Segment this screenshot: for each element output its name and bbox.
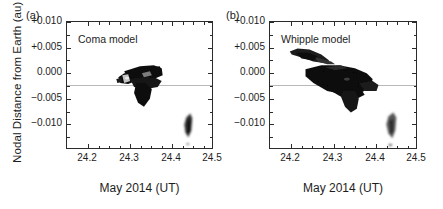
y-tick-major: [67, 73, 71, 74]
x-tick-minor: [193, 146, 194, 149]
y-axis-title: Nodal Distance from Earth (au): [11, 3, 23, 163]
x-axis-title-b: May 2014 (UT): [269, 181, 417, 195]
x-tick-label: 24.4: [365, 153, 384, 163]
x-tick-major-top: [88, 22, 89, 26]
y-tick-minor: [270, 86, 273, 87]
x-tick-major-top: [172, 22, 173, 26]
x-tick-minor-top: [387, 22, 388, 25]
x-tick-minor-top: [397, 22, 398, 25]
x-tick-minor: [162, 146, 163, 149]
x-tick-label: 24.5: [202, 153, 221, 163]
y-tick-major-right: [412, 73, 416, 74]
dust-cloud-main-b: [306, 65, 379, 112]
x-tick-major: [291, 144, 292, 148]
dust-cloud-upper-b: [290, 49, 335, 65]
x-tick-label: 24.3: [323, 153, 342, 163]
x-tick-minor-top: [312, 22, 313, 25]
plot-frame-a: Coma model: [66, 21, 213, 149]
x-tick-minor: [302, 146, 303, 149]
y-tick-minor: [270, 137, 273, 138]
x-tick-minor: [387, 146, 388, 149]
x-tick-minor-top: [141, 22, 142, 25]
x-tick-label: 24.4: [161, 153, 180, 163]
x-tick-minor-top: [99, 22, 100, 25]
x-tick-minor: [120, 146, 121, 149]
figure-root: Nodal Distance from Earth (au) (a) (b): [0, 0, 443, 209]
y-tick-label: 0.000: [37, 67, 62, 77]
x-tick-major: [88, 144, 89, 148]
y-tick-minor-right: [414, 60, 417, 61]
y-tick-label: +0.005: [31, 42, 62, 52]
y-tick-label: −0.010: [234, 118, 265, 128]
x-tick-minor: [323, 146, 324, 149]
y-tick-label: 0.000: [240, 67, 265, 77]
y-tick-label: −0.005: [31, 93, 62, 103]
x-tick-major-top: [334, 22, 335, 26]
y-tick-major: [67, 48, 71, 49]
x-tick-major: [130, 144, 131, 148]
y-tick-minor: [67, 86, 70, 87]
x-tick-minor: [141, 146, 142, 149]
y-tick-minor: [67, 137, 70, 138]
y-tick-minor: [270, 60, 273, 61]
y-tick-major-right: [412, 48, 416, 49]
y-tick-label: +0.010: [31, 16, 62, 26]
y-tick-major-right: [412, 124, 416, 125]
x-tick-minor: [408, 146, 409, 149]
y-tick-minor-right: [210, 86, 213, 87]
x-tick-minor: [99, 146, 100, 149]
x-tick-minor: [344, 146, 345, 149]
y-tick-major-right: [208, 73, 212, 74]
x-tick-major: [376, 144, 377, 148]
x-tick-minor-top: [344, 22, 345, 25]
y-tick-major: [67, 99, 71, 100]
dust-cloud-secondary-a: [184, 114, 192, 146]
x-axis-title-a: May 2014 (UT): [66, 181, 213, 195]
y-tick-major-right: [208, 99, 212, 100]
plot-panel-b: Whipple model +0.010 +0.005 0.000 −0.005…: [269, 21, 417, 149]
x-tick-major-top: [376, 22, 377, 26]
y-tick-major: [270, 99, 274, 100]
y-tick-major: [67, 124, 71, 125]
x-tick-minor: [366, 146, 367, 149]
x-tick-minor-top: [162, 22, 163, 25]
y-tick-minor-right: [414, 112, 417, 113]
x-tick-minor: [204, 146, 205, 149]
y-tick-minor-right: [210, 137, 213, 138]
x-tick-minor-top: [323, 22, 324, 25]
x-tick-minor-top: [120, 22, 121, 25]
x-tick-major: [172, 144, 173, 148]
y-tick-major: [67, 22, 71, 23]
y-tick-major-right: [412, 22, 416, 23]
x-tick-minor-top: [302, 22, 303, 25]
y-tick-minor-right: [210, 112, 213, 113]
y-tick-minor-right: [210, 60, 213, 61]
x-tick-major-top: [130, 22, 131, 26]
plot-panel-a: Coma model +0.010 +0.005 0.000 −0.005 −0…: [66, 21, 213, 149]
x-tick-minor-top: [109, 22, 110, 25]
y-tick-minor: [270, 35, 273, 36]
y-tick-minor-right: [210, 35, 213, 36]
y-tick-minor-right: [414, 137, 417, 138]
x-tick-label: 24.2: [280, 153, 299, 163]
y-tick-label: +0.010: [234, 16, 265, 26]
x-tick-label: 24.5: [406, 153, 425, 163]
y-tick-minor: [67, 35, 70, 36]
y-tick-major-right: [208, 22, 212, 23]
y-tick-major: [270, 73, 274, 74]
x-tick-minor: [109, 146, 110, 149]
dust-cloud-secondary-b: [386, 113, 396, 147]
x-tick-minor: [397, 146, 398, 149]
y-tick-major-right: [208, 124, 212, 125]
x-tick-label: 24.3: [119, 153, 138, 163]
y-tick-major: [270, 124, 274, 125]
annotation-whipple-model: Whipple model: [281, 33, 350, 45]
x-tick-minor: [183, 146, 184, 149]
y-tick-major: [270, 48, 274, 49]
y-tick-major: [270, 22, 274, 23]
x-tick-minor-top: [355, 22, 356, 25]
plot-frame-b: Whipple model: [269, 21, 417, 149]
y-tick-minor-right: [414, 86, 417, 87]
x-tick-minor: [312, 146, 313, 149]
y-tick-major-right: [208, 48, 212, 49]
